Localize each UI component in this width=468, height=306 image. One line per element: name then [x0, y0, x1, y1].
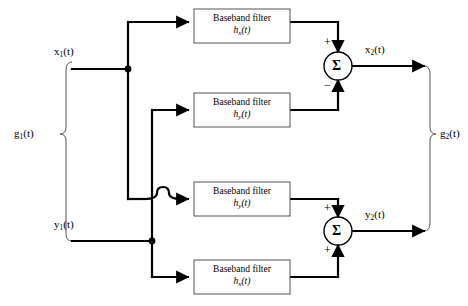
filter-box-4-line1: Baseband filter [213, 264, 271, 274]
junction-dot-x1 [125, 66, 132, 73]
filter-box-4-label: Baseband filter hx(t) [194, 264, 290, 288]
summer-top-sigma: Σ [332, 59, 341, 73]
input-brace [60, 62, 72, 241]
filter-box-3-line2: hy(t) [234, 198, 251, 208]
output-label-x2: x2(t) [365, 44, 385, 55]
filter-box-3-label: Baseband filter hy(t) [194, 186, 290, 210]
filter-box-2-line1: Baseband filter [213, 97, 271, 107]
filter-box-3-line1: Baseband filter [213, 186, 271, 196]
summer-bottom-plus-sign-bottom: + [324, 244, 331, 256]
filter-box-2-label: Baseband filter hy(t) [194, 97, 290, 121]
junction-dot-y1 [149, 238, 156, 245]
output-label-y2: y2(t) [365, 209, 385, 220]
input-label-x1: x1(t) [54, 46, 74, 57]
group-label-g1: g1(t) [14, 128, 34, 139]
summer-top-plus-sign: + [324, 36, 331, 48]
summer-bottom-plus-sign-top: + [324, 202, 331, 214]
input-label-y1: y1(t) [54, 219, 74, 230]
filter-box-1-label: Baseband filter hx(t) [194, 13, 290, 37]
output-brace [424, 66, 436, 231]
filter-box-4-line2: hx(t) [234, 276, 251, 286]
summer-top-minus-sign: − [324, 79, 331, 91]
group-label-g2: g2(t) [440, 128, 460, 139]
filter-box-1-line1: Baseband filter [213, 13, 271, 23]
filter-box-2-line2: hy(t) [234, 109, 251, 119]
summer-bottom-sigma: Σ [332, 224, 341, 238]
filter-box-1-line2: hx(t) [234, 25, 251, 35]
diagram-canvas: x1(t) y1(t) x2(t) y2(t) g1(t) g2(t) Base… [0, 0, 468, 306]
